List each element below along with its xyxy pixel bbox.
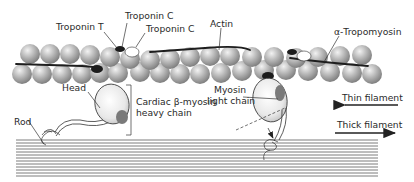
label-troponin-c-2: Troponin C [146, 23, 194, 34]
troponin-dark-right [287, 49, 297, 55]
troponin-c-light [125, 47, 139, 57]
label-thin-filament: Thin filament [342, 92, 403, 103]
troponin-light-right [297, 51, 311, 61]
troponin-t-blob-left [91, 65, 103, 73]
myosin-head-right [249, 75, 290, 124]
thick-filament-lines [16, 140, 378, 176]
label-rod: Rod [14, 116, 31, 127]
label-troponin-c-1: Troponin C [125, 10, 173, 21]
label-tropomyosin: α-Tropomyosin [334, 26, 401, 37]
light-chain-left [116, 110, 128, 124]
label-thick-filament: Thick filament [337, 119, 402, 130]
myosin-molecule-left [41, 81, 132, 145]
label-heavy-chain-line1: Cardiac β-myosin [136, 96, 216, 107]
label-head: Head [62, 82, 86, 93]
label-myosin-light-chain-line2: light chain [207, 95, 255, 106]
label-myosin-light-chain-line1: Myosin [214, 84, 246, 95]
label-troponin-t: Troponin T [56, 21, 104, 32]
label-actin: Actin [210, 18, 233, 29]
label-heavy-chain-line2: heavy chain [136, 107, 192, 118]
sarcomere-diagram: Troponin T Troponin C Troponin C Actin α… [0, 0, 414, 182]
